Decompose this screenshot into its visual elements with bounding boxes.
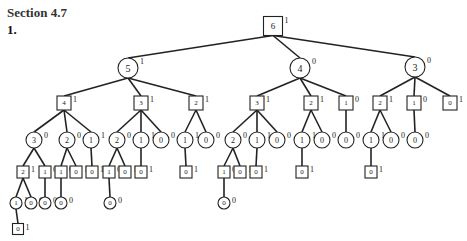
min-node-circle: 11 bbox=[133, 131, 155, 148]
min-node-circle: 00 bbox=[407, 131, 429, 148]
node-label: 0 bbox=[287, 131, 291, 140]
min-node-circle: 11 bbox=[177, 131, 199, 148]
max-node-square: 21 bbox=[373, 95, 393, 110]
node-label: 1 bbox=[389, 95, 393, 104]
node-value: 1 bbox=[300, 136, 304, 145]
min-node-circle: 11 bbox=[363, 131, 385, 148]
node-value: 4 bbox=[62, 99, 66, 107]
node-label: 0 bbox=[425, 131, 429, 140]
node-value: 0 bbox=[43, 199, 47, 207]
max-node-square: 21 bbox=[17, 165, 35, 178]
tree-edge bbox=[300, 78, 346, 96]
node-value: 0 bbox=[413, 136, 417, 145]
node-value: 1 bbox=[255, 136, 259, 145]
min-node-circle: 30 bbox=[405, 56, 431, 77]
node-value: 2 bbox=[21, 168, 25, 176]
tree-edge bbox=[196, 110, 206, 132]
min-node-circle: 00 bbox=[269, 131, 291, 148]
max-node-square: 01 bbox=[250, 165, 268, 178]
node-label: 1 bbox=[150, 95, 154, 104]
node-label: 1 bbox=[205, 95, 209, 104]
node-label: 1 bbox=[266, 95, 270, 104]
node-value: 2 bbox=[378, 99, 382, 107]
min-node-circle: 11 bbox=[294, 131, 316, 148]
max-node-square: 01 bbox=[13, 223, 30, 235]
node-label: 1 bbox=[194, 165, 198, 174]
max-node-square: 01 bbox=[443, 95, 463, 110]
node-label: 1 bbox=[140, 57, 144, 66]
node-label: 0 bbox=[423, 95, 427, 104]
node-label: 1 bbox=[73, 95, 77, 104]
tree-edge bbox=[233, 148, 240, 166]
min-node-circle: 51 bbox=[118, 57, 144, 78]
node-value: 1 bbox=[59, 168, 63, 176]
min-node-circle: 20 bbox=[59, 131, 81, 148]
tree-edge bbox=[233, 110, 257, 132]
tree-edge bbox=[64, 78, 128, 96]
tree-edge bbox=[185, 148, 186, 166]
max-node-square: 10 bbox=[218, 165, 236, 178]
node-value: 0 bbox=[238, 168, 242, 176]
tree-edge bbox=[257, 110, 277, 132]
node-value: 0 bbox=[275, 136, 279, 145]
tree-edge bbox=[34, 110, 64, 132]
node-value: 0 bbox=[204, 136, 208, 145]
tree-edge bbox=[256, 148, 257, 166]
tree-edge bbox=[380, 77, 415, 96]
min-node-circle: 20 bbox=[109, 131, 131, 148]
tree-edge bbox=[311, 110, 322, 132]
tree-edge bbox=[302, 110, 311, 132]
node-value: 4 bbox=[298, 63, 303, 74]
max-node-square: 21 bbox=[189, 95, 209, 110]
node-label: 1 bbox=[101, 131, 105, 140]
node-value: 0 bbox=[254, 168, 258, 176]
max-node-square: 01 bbox=[365, 165, 383, 178]
tree-edge bbox=[371, 110, 380, 132]
node-value: 2 bbox=[194, 99, 198, 107]
node-label: 0 bbox=[401, 131, 405, 140]
node-value: 5 bbox=[126, 63, 131, 74]
min-node-circle: 00 bbox=[314, 131, 336, 148]
node-label: 1 bbox=[310, 165, 314, 174]
max-node-square: 31 bbox=[250, 95, 270, 110]
max-node-square: 10 bbox=[339, 95, 359, 110]
min-node-circle: 00 bbox=[218, 196, 236, 209]
min-node-circle: 00 bbox=[153, 131, 175, 148]
tree-edge bbox=[224, 148, 233, 166]
min-node-circle: 11 bbox=[249, 131, 271, 148]
tree-edge bbox=[61, 148, 67, 166]
min-node-circle: 00 bbox=[104, 196, 122, 209]
node-label: 1 bbox=[149, 165, 153, 174]
tree-edge bbox=[117, 110, 141, 132]
min-node-circle: 00 bbox=[55, 196, 73, 209]
node-value: 2 bbox=[231, 136, 235, 145]
node-value: 3 bbox=[413, 62, 418, 73]
max-node-square: 01 bbox=[119, 165, 137, 178]
tree-edge bbox=[23, 178, 31, 197]
node-label: 0 bbox=[355, 95, 359, 104]
node-value: 0 bbox=[448, 99, 452, 107]
node-value: 0 bbox=[16, 225, 20, 233]
node-value: 3 bbox=[139, 99, 143, 107]
node-value: 2 bbox=[65, 136, 69, 145]
max-node-square: 10 bbox=[407, 95, 427, 110]
min-node-circle: 00 bbox=[383, 131, 405, 148]
max-node-square: 61 bbox=[264, 16, 289, 36]
max-node-square: 21 bbox=[304, 95, 324, 110]
node-value: 1 bbox=[412, 99, 416, 107]
node-label: 1 bbox=[31, 165, 35, 174]
node-value: 0 bbox=[184, 168, 188, 176]
tree-edge bbox=[91, 148, 92, 166]
node-value: 0 bbox=[29, 199, 33, 207]
node-value: 1 bbox=[107, 168, 111, 176]
game-tree-diagram: 6151403041312131211021100130201120110011… bbox=[0, 0, 467, 241]
tree-edge bbox=[414, 110, 415, 132]
node-value: 6 bbox=[271, 21, 276, 31]
node-label: 0 bbox=[427, 56, 431, 65]
node-value: 0 bbox=[369, 168, 373, 176]
node-label: 0 bbox=[118, 196, 122, 205]
node-value: 2 bbox=[309, 99, 313, 107]
node-value: 1 bbox=[344, 99, 348, 107]
node-label: 0 bbox=[243, 131, 247, 140]
tree-edge bbox=[257, 78, 300, 96]
